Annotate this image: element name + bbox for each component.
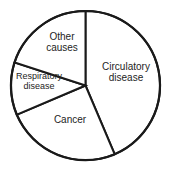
pie-chart: Circulatory disease Other causes Respira… [0, 0, 171, 171]
slice-label-other-causes: Other causes [36, 31, 88, 53]
slice-label-respiratory-line1: Respiratory [8, 71, 70, 81]
slice-label-circulatory-disease: Circulatory disease [96, 61, 156, 83]
slice-label-respiratory-line2: disease [8, 81, 70, 91]
slice-label-respiratory-disease: Respiratory disease [8, 71, 70, 91]
slice-label-circulatory-line1: Circulatory [96, 61, 156, 72]
slice-label-other-line1: Other [36, 31, 88, 42]
slice-label-circulatory-line2: disease [96, 72, 156, 83]
slice-label-cancer-line1: Cancer [44, 114, 96, 125]
slice-label-cancer: Cancer [44, 114, 96, 125]
slice-label-other-line2: causes [36, 42, 88, 53]
